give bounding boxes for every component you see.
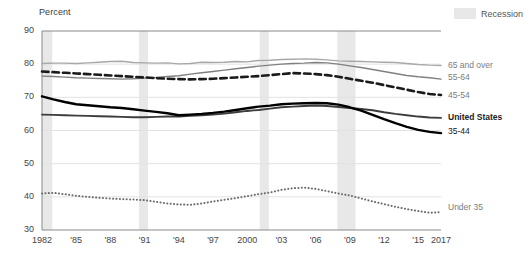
y-tick-label: 70 [14, 91, 34, 101]
series-label-55-64: 55-64 [448, 72, 470, 82]
x-tick-label: '12 [378, 235, 390, 245]
chart-container: Percent Recession 30405060708090 1982'85… [0, 0, 531, 257]
series-line-under-35 [42, 188, 441, 213]
x-tick-label: '94 [173, 235, 185, 245]
x-tick-label: '03 [276, 235, 288, 245]
x-tick-label: '15 [412, 235, 424, 245]
x-tick-label: '09 [344, 235, 356, 245]
y-tick-label: 90 [14, 25, 34, 35]
x-tick-label: 2017 [431, 235, 451, 245]
series-label-45-54: 45-54 [448, 90, 470, 100]
series-label-65-and-over: 65 and over [448, 60, 493, 70]
series-label-35-44: 35-44 [448, 126, 470, 136]
x-tick-label: '97 [207, 235, 219, 245]
series-line-45-54 [42, 71, 441, 95]
series-line-35-44 [42, 96, 441, 133]
x-tick-label: '88 [105, 235, 117, 245]
x-tick-label: '91 [139, 235, 151, 245]
x-tick-label: 2000 [237, 235, 257, 245]
x-tick-label: 1982 [32, 235, 52, 245]
series-label-united-states: United States [448, 112, 502, 122]
y-tick-label: 30 [14, 224, 34, 234]
y-tick-label: 60 [14, 125, 34, 135]
y-tick-label: 40 [14, 191, 34, 201]
x-tick-label: '06 [310, 235, 322, 245]
x-tick-label: '85 [70, 235, 82, 245]
y-tick-label: 80 [14, 58, 34, 68]
y-tick-label: 50 [14, 158, 34, 168]
series-label-under-35: Under 35 [448, 202, 483, 212]
